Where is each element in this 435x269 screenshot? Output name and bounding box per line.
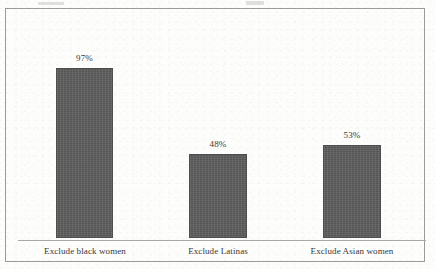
bar-rect-2	[323, 145, 381, 238]
category-label-0: Exclude black women	[24, 246, 146, 256]
bar-rect-0	[56, 68, 113, 238]
scan-artifact-top-left	[38, 2, 64, 5]
bar-group-1: 48%	[189, 154, 247, 238]
bar-group-0: 97%	[56, 68, 113, 238]
bar-value-label-2: 53%	[323, 130, 381, 140]
category-label-1: Exclude Latinas	[166, 246, 270, 256]
bar-rect-1	[189, 154, 247, 238]
bar-group-2: 53%	[323, 145, 381, 238]
scan-artifact-top-right	[246, 1, 264, 5]
category-label-2: Exclude Asian women	[291, 246, 413, 256]
bar-value-label-0: 97%	[56, 53, 113, 63]
bar-chart-figure: 97% 48% 53% Exclude black women Exclude …	[0, 0, 435, 269]
x-axis-baseline	[18, 240, 426, 241]
plot-area-frame: 97% 48% 53% Exclude black women Exclude …	[5, 8, 425, 262]
bar-value-label-1: 48%	[189, 139, 247, 149]
